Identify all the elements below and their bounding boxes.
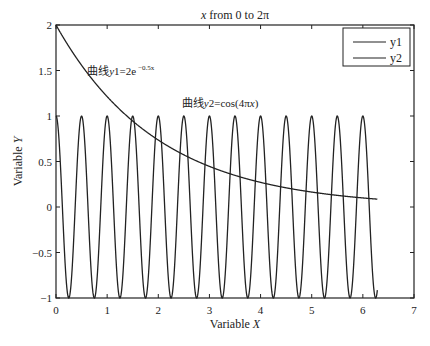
annotation-y2-tail: ) bbox=[255, 97, 259, 110]
y-tick-label: 0 bbox=[47, 201, 53, 213]
y-tick-label: 1 bbox=[47, 110, 53, 122]
annotation-y2-prefix: 曲线 bbox=[182, 96, 204, 109]
x-tick-label: 4 bbox=[258, 304, 264, 316]
chart-title: x from 0 to 2π bbox=[200, 8, 269, 22]
y-axis-label-italic: Y bbox=[11, 135, 25, 143]
annotation-y1-superscript: −0.5x bbox=[138, 64, 155, 72]
x-tick-label: 5 bbox=[309, 304, 315, 316]
legend: y1 y2 bbox=[343, 28, 410, 66]
annotation-y2-body: 2=cos(4π bbox=[209, 97, 251, 110]
x-axis-label-plain: Variable bbox=[210, 317, 253, 331]
x-tick-label: 7 bbox=[411, 304, 417, 316]
x-tick-label: 0 bbox=[53, 304, 59, 316]
annotation-y2: 曲线y2=cos(4πx) bbox=[182, 96, 259, 110]
legend-label-y2: y2 bbox=[390, 51, 402, 65]
title-rest: from 0 to 2π bbox=[206, 8, 269, 22]
y-axis-label: Variable Y bbox=[11, 135, 25, 186]
chart: 01234567 −1−0.500.511.52 x from 0 to 2π … bbox=[0, 0, 430, 346]
y-tick-label: −0.5 bbox=[32, 247, 52, 259]
x-tick-label: 2 bbox=[156, 304, 162, 316]
legend-label-y1: y1 bbox=[390, 35, 402, 49]
annotation-y1-body: 1=2e bbox=[114, 65, 136, 77]
x-tick-label: 6 bbox=[360, 304, 366, 316]
x-tick-label: 1 bbox=[104, 304, 110, 316]
y-tick-label: 1.5 bbox=[38, 65, 52, 77]
x-axis-label: Variable X bbox=[210, 317, 261, 331]
y-tick-label: −1 bbox=[40, 292, 52, 304]
y-tick-label: 2 bbox=[47, 19, 53, 31]
y-tick-label: 0.5 bbox=[38, 156, 52, 168]
x-axis-label-italic: X bbox=[252, 317, 261, 331]
annotation-y1-prefix: 曲线 bbox=[87, 64, 109, 77]
y-axis-label-plain: Variable bbox=[11, 143, 25, 186]
x-tick-label: 3 bbox=[207, 304, 213, 316]
